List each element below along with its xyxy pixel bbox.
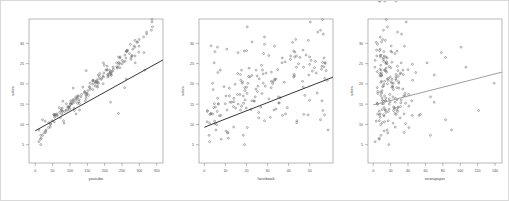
- data-point: [289, 55, 291, 57]
- y-tick-label: 5: [192, 143, 194, 147]
- data-point: [394, 126, 396, 128]
- data-point: [388, 108, 390, 110]
- data-point: [395, 76, 397, 78]
- data-point: [314, 60, 316, 62]
- data-point: [239, 109, 241, 111]
- y-tick-label: 10: [359, 123, 363, 127]
- data-point: [281, 57, 283, 59]
- data-point: [94, 85, 96, 87]
- data-point: [388, 66, 390, 68]
- data-point: [150, 29, 152, 31]
- data-point: [393, 110, 395, 112]
- data-point: [110, 101, 112, 103]
- data-point: [225, 130, 227, 132]
- data-point: [146, 31, 148, 33]
- data-point: [415, 72, 417, 74]
- data-point: [320, 68, 322, 70]
- data-point: [267, 55, 269, 57]
- data-point: [78, 103, 80, 105]
- data-point: [239, 79, 241, 81]
- data-points: [206, 19, 329, 146]
- data-point: [270, 87, 272, 89]
- data-point: [128, 53, 130, 55]
- data-point: [445, 57, 447, 59]
- data-point: [269, 116, 271, 118]
- data-point: [233, 97, 235, 99]
- x-tick-label: 200: [102, 169, 108, 173]
- data-point: [125, 57, 127, 59]
- data-point: [383, 55, 385, 57]
- data-point: [407, 69, 409, 71]
- data-point: [375, 41, 377, 43]
- x-tick-label: 300: [136, 169, 142, 173]
- data-point: [263, 120, 265, 122]
- data-point: [284, 61, 286, 63]
- data-point: [321, 110, 323, 112]
- y-tick-label: 30: [359, 42, 363, 46]
- data-point: [124, 54, 126, 56]
- data-point: [223, 86, 225, 88]
- data-point: [391, 61, 393, 63]
- data-point: [319, 119, 321, 121]
- data-point: [301, 80, 303, 82]
- data-point: [430, 134, 432, 136]
- data-point: [403, 74, 405, 76]
- data-point: [320, 65, 322, 67]
- data-point: [257, 112, 259, 114]
- plot-frame: [199, 19, 333, 163]
- data-point: [377, 93, 379, 95]
- data-point: [303, 94, 305, 96]
- scatter-panel: 0102030405051015202530facebooksales: [171, 1, 341, 201]
- data-point: [401, 99, 403, 101]
- data-point: [302, 113, 304, 115]
- data-point: [325, 70, 327, 72]
- data-point: [383, 103, 385, 105]
- data-point: [138, 51, 140, 53]
- x-tick-label: 100: [67, 169, 73, 173]
- data-point: [379, 110, 381, 112]
- data-point: [251, 100, 253, 102]
- data-point: [387, 83, 389, 85]
- x-tick-label: 60: [424, 169, 428, 173]
- data-point: [245, 107, 247, 109]
- y-axis-title: sales: [10, 86, 15, 96]
- data-point: [213, 62, 215, 64]
- data-point: [388, 144, 390, 146]
- data-point: [390, 45, 392, 47]
- data-point: [307, 39, 309, 41]
- data-point: [244, 99, 246, 101]
- data-point: [402, 88, 404, 90]
- data-point: [262, 82, 264, 84]
- x-tick-label: 50: [51, 169, 55, 173]
- data-point: [109, 69, 111, 71]
- data-point: [302, 86, 304, 88]
- data-point: [295, 66, 297, 68]
- data-point: [261, 69, 263, 71]
- data-point: [391, 78, 393, 80]
- data-point: [412, 79, 414, 81]
- data-point: [248, 67, 250, 69]
- data-point: [275, 108, 277, 110]
- data-point: [281, 114, 283, 116]
- data-point: [381, 97, 383, 99]
- data-point: [208, 134, 210, 136]
- data-point: [85, 70, 87, 72]
- data-point: [430, 96, 432, 98]
- data-point: [259, 106, 261, 108]
- data-point: [236, 94, 238, 96]
- data-point: [220, 138, 222, 140]
- data-point: [389, 94, 391, 96]
- data-point: [381, 41, 383, 43]
- data-point: [382, 122, 384, 124]
- y-tick-label: 30: [20, 42, 24, 46]
- data-point: [99, 73, 101, 75]
- data-point: [206, 121, 208, 123]
- data-point: [308, 63, 310, 65]
- data-point: [121, 63, 123, 65]
- data-point: [400, 62, 402, 64]
- data-point: [310, 59, 312, 61]
- data-point: [119, 67, 121, 69]
- data-point: [385, 39, 387, 41]
- regression-line: [373, 72, 502, 105]
- data-point: [387, 111, 389, 113]
